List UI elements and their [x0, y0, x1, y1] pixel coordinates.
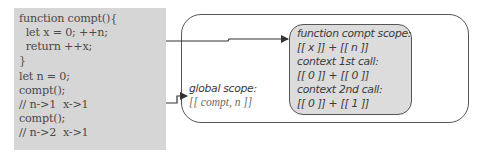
function-scope-arrow: [166, 39, 288, 41]
scope-diagram: function compt(){ let x = 0; ++n; return…: [0, 0, 478, 156]
global-scope-arrow: [166, 96, 187, 103]
connector-arrows: [0, 0, 478, 156]
